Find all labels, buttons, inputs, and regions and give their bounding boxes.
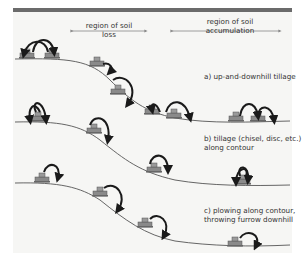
- diagram-graphics: [0, 0, 304, 266]
- region-soil-accumulation-label: region of soil accumulation: [200, 18, 260, 35]
- caption-b: b) tillage (chisel, disc, etc.) along co…: [204, 135, 301, 152]
- soil-tillage-diagram: region of soil loss region of soil accum…: [0, 0, 304, 266]
- caption-a: a) up-and-downhill tillage: [204, 73, 296, 82]
- region-soil-loss-label: region of soil loss: [78, 22, 140, 39]
- caption-c: c) plowing along contour, throwing furro…: [204, 207, 295, 224]
- caption-c-line2: throwing furrow downhill: [204, 216, 295, 225]
- caption-b-line2: along contour: [204, 144, 301, 153]
- accumulation-line2: accumulation: [200, 27, 260, 36]
